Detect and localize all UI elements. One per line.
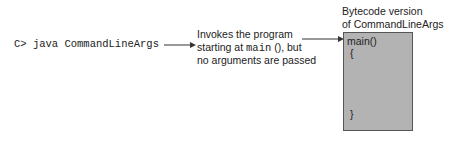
description-line-3: no arguments are passed [197, 54, 316, 67]
bytecode-box: main() { } [343, 32, 413, 131]
command-line: C> java CommandLineArgs [14, 38, 159, 50]
arrow-right-icon [164, 41, 196, 49]
description-line-2: starting at main (), but [197, 41, 316, 55]
bytecode-main: main() [347, 35, 377, 47]
bytecode-title: Bytecode version of CommandLineArgs [342, 5, 444, 30]
command-prompt: C> [14, 38, 27, 50]
main-code: main [246, 42, 271, 54]
invocation-description: Invokes the program starting at main (),… [197, 28, 316, 67]
bytecode-open-brace: { [350, 47, 354, 59]
description-line-1: Invokes the program [197, 28, 316, 41]
bytecode-close-brace: } [350, 108, 354, 120]
command-text: java CommandLineArgs [33, 38, 159, 50]
arrow-right-icon [302, 35, 344, 43]
